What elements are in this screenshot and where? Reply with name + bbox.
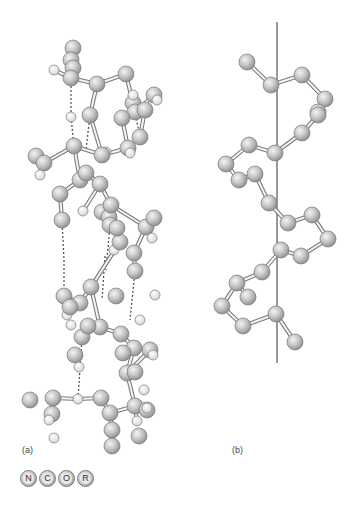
hydrogen-atom xyxy=(125,148,135,158)
hydrogen-atom xyxy=(66,112,76,122)
atom xyxy=(93,390,109,406)
hydrogen-atom xyxy=(66,320,76,330)
atom-legend: N C O R xyxy=(20,470,94,487)
legend-oxygen: O xyxy=(58,470,75,487)
hydrogen-atom xyxy=(132,416,142,426)
hydrogen-atom xyxy=(152,95,162,105)
atom xyxy=(22,392,38,408)
atom xyxy=(287,334,303,350)
atom xyxy=(89,76,105,92)
panel-b-helix-backbone xyxy=(214,22,336,363)
atom xyxy=(310,107,326,123)
atom xyxy=(131,428,147,444)
hydrogen-atom xyxy=(128,90,138,100)
atom xyxy=(113,326,129,342)
atom xyxy=(115,345,131,361)
atom xyxy=(132,129,148,145)
hydrogen-atom xyxy=(147,233,157,243)
hydrogen-atom xyxy=(78,206,88,216)
atom xyxy=(218,156,234,172)
atom xyxy=(261,195,277,211)
legend-carbon: C xyxy=(39,470,56,487)
atom xyxy=(127,263,143,279)
hydrogen-atom xyxy=(35,170,45,180)
hydrogen-atom xyxy=(135,315,145,325)
hydrogen-atom xyxy=(139,385,149,395)
atom xyxy=(102,405,118,421)
atom xyxy=(66,138,82,154)
atom xyxy=(82,107,98,123)
atom xyxy=(67,347,83,363)
atom xyxy=(247,166,263,182)
legend-side-chain-symbol: R xyxy=(80,473,91,484)
atom xyxy=(36,155,52,171)
atom xyxy=(62,299,78,315)
hydrogen-atom xyxy=(49,65,59,75)
atom xyxy=(104,422,120,438)
atom xyxy=(268,306,284,322)
atom xyxy=(231,172,247,188)
atom xyxy=(293,248,309,264)
atom xyxy=(104,438,120,454)
atom xyxy=(109,220,125,236)
hydrogen-atom xyxy=(44,415,54,425)
atom xyxy=(118,66,134,82)
atom xyxy=(239,54,255,70)
panel-a-label: (a) xyxy=(22,445,33,455)
atom xyxy=(229,275,245,291)
molecular-structure-figure xyxy=(0,0,352,506)
legend-oxygen-symbol: O xyxy=(61,473,72,484)
atom xyxy=(280,215,296,231)
legend-side-chain: R xyxy=(77,470,94,487)
atom xyxy=(126,245,142,261)
hydrogen-atom xyxy=(142,403,152,413)
atom xyxy=(108,288,124,304)
atom xyxy=(294,125,310,141)
atom xyxy=(235,318,251,334)
atom xyxy=(78,165,94,181)
atom xyxy=(146,210,162,226)
atom xyxy=(137,102,153,118)
hydrogen-atom xyxy=(150,290,160,300)
atom xyxy=(273,242,289,258)
hydrogen-atom xyxy=(148,350,158,360)
atom xyxy=(83,279,99,295)
panel-a-backbone-with-hbonds xyxy=(22,40,162,454)
atom xyxy=(45,390,61,406)
atom xyxy=(92,176,108,192)
atom xyxy=(94,147,110,163)
atom xyxy=(112,234,128,250)
legend-carbon-symbol: C xyxy=(42,473,53,484)
atom xyxy=(294,67,310,83)
atom xyxy=(320,231,336,247)
atom xyxy=(127,364,143,380)
atom xyxy=(214,298,230,314)
atom xyxy=(254,264,270,280)
atom xyxy=(267,145,283,161)
atom xyxy=(52,186,68,202)
hydrogen-atom xyxy=(49,433,59,443)
atom xyxy=(304,207,320,223)
atom xyxy=(240,289,256,305)
atom xyxy=(241,137,257,153)
atom xyxy=(114,110,130,126)
atom xyxy=(80,318,96,334)
atom xyxy=(103,197,119,213)
hydrogen-atom xyxy=(74,362,84,372)
hydrogen-atom xyxy=(73,394,83,404)
panel-b-label: (b) xyxy=(232,445,243,455)
atom xyxy=(54,212,70,228)
atom-spheres xyxy=(214,54,336,350)
atom xyxy=(263,77,279,93)
legend-nitrogen: N xyxy=(20,470,37,487)
atom xyxy=(63,70,79,86)
legend-nitrogen-symbol: N xyxy=(23,473,34,484)
